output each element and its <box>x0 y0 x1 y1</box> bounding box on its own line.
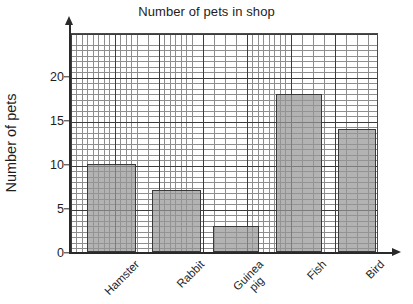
x-tick-label-bird: Bird <box>364 258 387 281</box>
bar-guinea-pig <box>213 226 259 252</box>
x-axis-arrow-icon <box>392 248 401 256</box>
y-tick-label-15: 15 <box>24 114 64 128</box>
y-tick-label-10: 10 <box>24 158 64 172</box>
y-tick-mark-0 <box>64 252 70 253</box>
bar-bird <box>338 129 376 252</box>
chart-title: Number of pets in shop <box>0 4 413 19</box>
y-tick-mark-10 <box>64 164 70 165</box>
y-tick-label-5: 5 <box>24 202 64 216</box>
y-tick-label-0: 0 <box>24 246 64 260</box>
x-tick-label-fish: Fish <box>305 258 329 282</box>
x-tick-label-hamster: Hamster <box>102 258 141 297</box>
x-tick-label-guinea: Guineapig <box>231 258 274 301</box>
y-axis-arrow-icon <box>65 16 73 25</box>
bar-chart: Number of pets in shop Number of pets 05… <box>0 0 413 304</box>
y-tick-mark-5 <box>64 208 70 209</box>
plot-area <box>70 33 378 253</box>
y-tick-mark-20 <box>64 76 70 77</box>
bar-hamster <box>87 164 136 252</box>
y-axis-line <box>69 24 71 254</box>
x-tick-label-rabbit: Rabbit <box>174 258 206 290</box>
y-tick-mark-15 <box>64 120 70 121</box>
y-axis-title-container: Number of pets <box>0 33 23 253</box>
bars-layer <box>71 34 377 252</box>
x-axis-line <box>70 252 395 254</box>
bar-fish <box>276 94 322 252</box>
y-tick-label-20: 20 <box>24 70 64 84</box>
y-axis-title: Number of pets <box>3 93 19 192</box>
bar-rabbit <box>152 190 201 252</box>
